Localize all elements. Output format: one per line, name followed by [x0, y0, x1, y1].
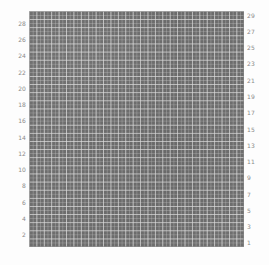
right-tick-27: 27 — [247, 28, 255, 35]
y-axis-right: 2927252321191715131197531 — [245, 0, 269, 265]
left-tick-10: 10 — [18, 166, 26, 173]
heatmap-plot-area[interactable] — [29, 11, 244, 247]
left-tick-2: 2 — [22, 231, 26, 238]
left-tick-22: 22 — [18, 69, 26, 76]
left-tick-16: 16 — [18, 117, 26, 124]
y-axis-left: 282624222018161412108642 — [2, 0, 28, 265]
right-tick-25: 25 — [247, 44, 255, 51]
right-tick-11: 11 — [247, 158, 255, 165]
right-tick-9: 9 — [247, 174, 251, 181]
right-tick-5: 5 — [247, 207, 251, 214]
left-tick-6: 6 — [22, 199, 26, 206]
right-tick-15: 15 — [247, 126, 255, 133]
right-tick-19: 19 — [247, 93, 255, 100]
left-tick-14: 14 — [18, 134, 26, 141]
left-tick-8: 8 — [22, 182, 26, 189]
left-tick-12: 12 — [18, 150, 26, 157]
left-tick-4: 4 — [22, 215, 26, 222]
right-tick-29: 29 — [247, 12, 255, 19]
chart-figure: 282624222018161412108642 292725232119171… — [0, 0, 269, 265]
left-tick-26: 26 — [18, 36, 26, 43]
right-tick-21: 21 — [247, 77, 255, 84]
right-tick-23: 23 — [247, 60, 255, 67]
right-tick-17: 17 — [247, 109, 255, 116]
left-tick-28: 28 — [18, 20, 26, 27]
right-tick-7: 7 — [247, 191, 251, 198]
right-tick-13: 13 — [247, 142, 255, 149]
left-tick-18: 18 — [18, 101, 26, 108]
major-gridlines — [29, 11, 244, 247]
right-tick-3: 3 — [247, 223, 251, 230]
left-tick-24: 24 — [18, 52, 26, 59]
left-tick-20: 20 — [18, 85, 26, 92]
right-tick-1: 1 — [247, 239, 251, 246]
